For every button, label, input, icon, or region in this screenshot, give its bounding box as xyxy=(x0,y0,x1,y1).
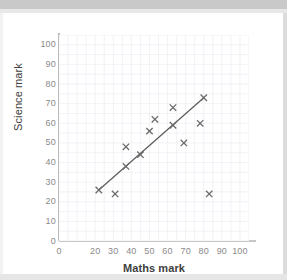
data-point xyxy=(206,191,212,197)
y-axis-tick-70: 70 xyxy=(26,99,56,108)
data-point xyxy=(112,191,118,197)
x-axis-tick-100: 100 xyxy=(225,247,255,256)
y-axis-tick-0: 0 xyxy=(26,237,56,246)
data-point xyxy=(146,128,152,134)
y-axis-title: Science mark xyxy=(12,37,24,157)
y-axis-tick-90: 90 xyxy=(26,60,56,69)
x-axis-tick-labels: 02030405060708090100 xyxy=(59,247,259,259)
data-point xyxy=(123,144,129,150)
y-axis-tick-30: 30 xyxy=(26,178,56,187)
data-point xyxy=(123,163,129,169)
y-axis-tick-20: 20 xyxy=(26,197,56,206)
page-left-edge xyxy=(0,13,3,274)
y-axis-tick-10: 10 xyxy=(26,217,56,226)
y-axis-tick-50: 50 xyxy=(26,138,56,147)
x-axis-title: Maths mark xyxy=(59,262,249,274)
data-point xyxy=(170,122,176,128)
page-right-edge xyxy=(283,13,287,274)
data-point xyxy=(170,104,176,110)
y-axis-tick-labels: 0102030405060708090100 xyxy=(20,35,56,241)
data-point xyxy=(201,95,207,101)
trend-line xyxy=(99,98,204,190)
y-axis-tick-100: 100 xyxy=(26,40,56,49)
data-point xyxy=(197,120,203,126)
data-point xyxy=(96,187,102,193)
page-container: 0102030405060708090100 02030405060708090… xyxy=(0,0,287,280)
page-top-band xyxy=(0,0,287,9)
data-point xyxy=(152,116,158,122)
x-axis-tick-0: 0 xyxy=(44,247,74,256)
y-axis-tick-40: 40 xyxy=(26,158,56,167)
y-axis-tick-80: 80 xyxy=(26,80,56,89)
data-points-layer xyxy=(59,35,249,241)
data-point xyxy=(181,140,187,146)
y-axis-tick-60: 60 xyxy=(26,119,56,128)
plot-area xyxy=(59,35,249,241)
scatter-chart-figure: 0102030405060708090100 02030405060708090… xyxy=(4,13,283,274)
page-bottom-band xyxy=(0,274,287,280)
